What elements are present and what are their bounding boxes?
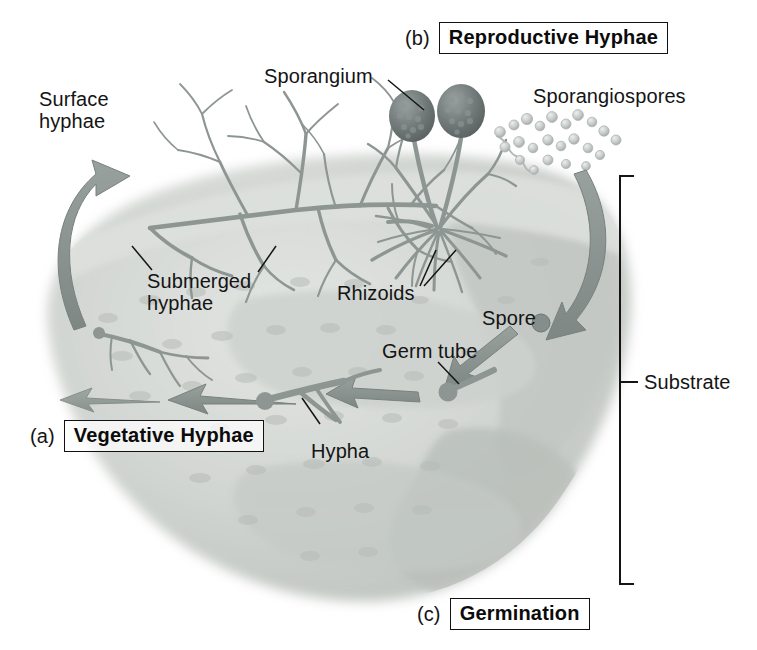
section-heading-reproductive-hyphae: (b) Reproductive Hyphae xyxy=(405,22,668,54)
label-germ-tube: Germ tube xyxy=(382,341,477,362)
section-tag-a: (a) xyxy=(30,425,55,448)
section-heading-germination: (c) Germination xyxy=(417,598,590,630)
fungal-life-cycle-diagram: (b) Reproductive Hyphae (a) Vegetative H… xyxy=(0,0,757,650)
section-label-reproductive-hyphae: Reproductive Hyphae xyxy=(439,22,668,54)
label-rhizoids: Rhizoids xyxy=(337,283,415,304)
label-spore: Spore xyxy=(482,308,536,329)
label-sporangium: Sporangium xyxy=(264,66,373,87)
section-heading-vegetative-hyphae: (a) Vegetative Hyphae xyxy=(30,420,264,452)
substrate-blob xyxy=(47,154,631,602)
section-tag-c: (c) xyxy=(417,603,441,626)
label-substrate: Substrate xyxy=(644,372,731,393)
substrate-bracket xyxy=(620,176,638,584)
section-label-germination: Germination xyxy=(450,598,590,630)
label-submerged-hyphae: Submerged hyphae xyxy=(147,270,251,314)
section-tag-b: (b) xyxy=(405,27,430,50)
label-hypha: Hypha xyxy=(311,441,369,462)
label-surface-hyphae: Surface hyphae xyxy=(39,88,109,132)
label-sporangiospores: Sporangiospores xyxy=(533,86,686,107)
section-label-vegetative-hyphae: Vegetative Hyphae xyxy=(64,420,264,452)
